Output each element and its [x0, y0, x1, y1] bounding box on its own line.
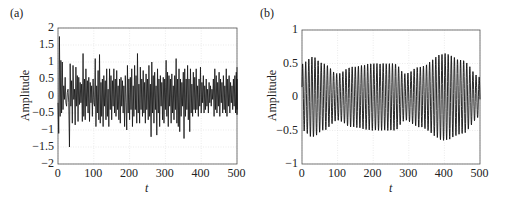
x-tick-label: 0: [299, 166, 305, 181]
y-tick-label: 0.5: [283, 56, 298, 71]
x-tick-label: 500: [470, 166, 488, 181]
x-tick-label: 100: [84, 166, 102, 181]
y-tick-label: 0: [48, 88, 54, 103]
y-tick-label: −1: [41, 122, 54, 137]
signal-line-b: [302, 53, 480, 140]
x-tick-label: 400: [192, 166, 210, 181]
x-tick-label: 100: [328, 166, 346, 181]
y-tick-label: 1: [292, 22, 298, 37]
x-tick-label: 400: [435, 166, 453, 181]
panel-a: (a) Amplitude t 010020030040050021.510.5…: [0, 0, 252, 205]
x-tick-label: 200: [120, 166, 138, 181]
y-tick-label: 1.5: [39, 37, 54, 52]
x-tick-label: 200: [364, 166, 382, 181]
y-tick-label: −0.5: [32, 105, 54, 120]
x-tick-label: 0: [55, 166, 61, 181]
y-tick-label: −2: [41, 156, 54, 171]
x-tick-label: 300: [156, 166, 174, 181]
y-tick-label: 2: [48, 20, 54, 35]
y-tick-label: −1: [285, 156, 298, 171]
x-tick-label: 300: [399, 166, 417, 181]
y-tick-label: 0.5: [39, 71, 54, 86]
y-tick-label: 0: [292, 89, 298, 104]
panel-b: (b) Amplitude t 010020030040050010.50−0.…: [252, 0, 505, 205]
signal-line-a: [58, 37, 237, 148]
y-tick-label: −0.5: [276, 123, 298, 138]
y-tick-label: −1.5: [32, 139, 54, 154]
x-tick-label: 500: [227, 166, 245, 181]
y-tick-label: 1: [48, 54, 54, 69]
